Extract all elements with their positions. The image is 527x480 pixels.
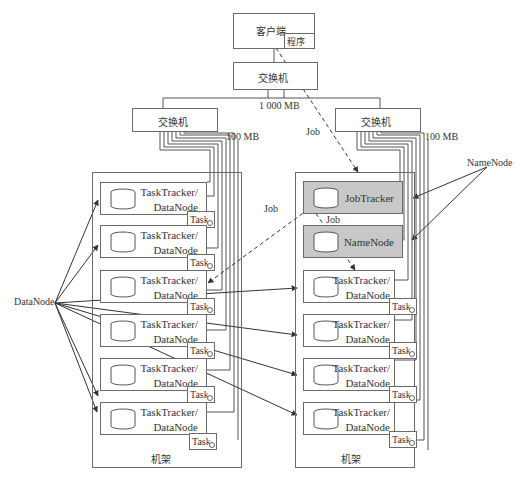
program-box: 程序 [284, 33, 315, 49]
task-badge: Task [389, 298, 417, 315]
node-role-label-2: DataNode [333, 332, 390, 347]
jobtracker-label: JobTracker [345, 191, 394, 206]
job-label-1: Job [306, 126, 320, 137]
task-badge: Task [189, 433, 217, 450]
node-role-label: TaskTracker/ [141, 228, 198, 243]
node-role-label: TaskTracker/ [333, 273, 390, 288]
right-rack-label: 机架 [341, 451, 361, 466]
datanode-callout: DataNode [14, 296, 55, 307]
left-rack-switch: 交换机 [132, 108, 218, 132]
client-box: 客户端 程序 [233, 13, 315, 49]
client-label: 客户端 [256, 23, 286, 38]
task-badge: Task [187, 386, 215, 403]
jobtracker-node: JobTracker [303, 181, 403, 214]
right-bandwidth-label: 100 MB [425, 131, 458, 142]
node-role-label: TaskTracker/ [333, 361, 390, 376]
task-badge: Task [187, 342, 215, 359]
node-role-label-2: DataNode [333, 376, 390, 391]
job-label-2: Job [326, 214, 340, 225]
task-badge: Task [389, 342, 417, 359]
node-role-label: TaskTracker/ [333, 317, 390, 332]
left-rack-label: 机架 [151, 451, 171, 466]
right-node-1: TaskTracker/DataNode [303, 270, 395, 303]
namenode-node: NameNode [303, 225, 403, 258]
node-role-label: TaskTracker/ [141, 185, 198, 200]
node-role-label: TaskTracker/ [141, 405, 198, 420]
database-icon [109, 188, 137, 210]
node-role-label-2: DataNode [333, 288, 390, 303]
right-node-2: TaskTracker/DataNode [303, 314, 395, 347]
left-bandwidth-label: 100 MB [226, 131, 259, 142]
database-icon [109, 320, 137, 342]
database-icon [312, 231, 340, 253]
right-switch-label: 交换机 [361, 114, 391, 129]
database-icon [109, 231, 137, 253]
node-role-label: TaskTracker/ [141, 361, 198, 376]
namenode-label: NameNode [344, 235, 394, 250]
core-switch-label: 交换机 [258, 70, 288, 85]
database-icon [109, 276, 137, 298]
job-label-3: Job [264, 203, 278, 214]
right-node-3: TaskTracker/DataNode [303, 358, 395, 391]
core-switch: 交换机 [233, 62, 318, 90]
node-role-label-2: DataNode [333, 420, 390, 435]
left-switch-label: 交换机 [158, 114, 188, 129]
right-node-4: TaskTracker/DataNode [303, 402, 395, 435]
node-role-label: TaskTracker/ [333, 405, 390, 420]
database-icon [312, 187, 340, 209]
task-badge: Task [389, 386, 417, 403]
database-icon [109, 364, 137, 386]
node-role-label: TaskTracker/ [141, 273, 198, 288]
task-badge: Task [389, 431, 417, 448]
database-icon [109, 408, 137, 430]
task-badge: Task [187, 298, 215, 315]
left-node-6: TaskTracker/DataNode [100, 402, 207, 435]
task-badge: Task [187, 254, 215, 271]
core-bandwidth-label: 1 000 MB [259, 100, 300, 111]
node-role-label: TaskTracker/ [141, 317, 198, 332]
right-rack-switch: 交换机 [335, 108, 421, 132]
namenode-callout: NameNode [467, 157, 513, 168]
program-label: 程序 [287, 35, 305, 48]
